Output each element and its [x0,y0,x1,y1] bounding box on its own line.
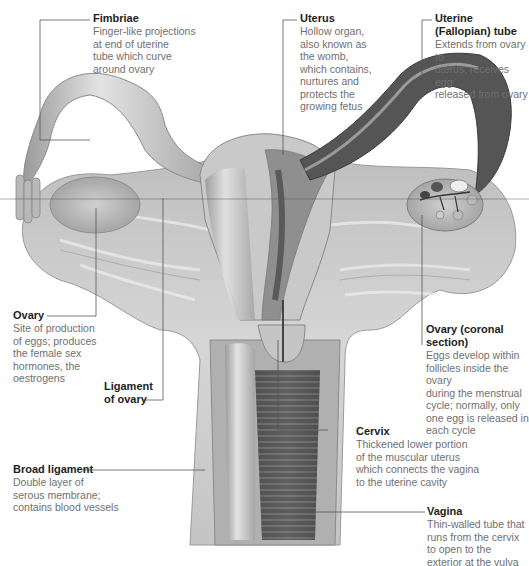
label-vagina-text: Thin-walled tube that runs from the cerv… [427,518,524,566]
label-ovary-text: Site of production of eggs; produces the… [13,322,96,385]
label-fimbriae-text: Finger-like projections at end of uterin… [93,25,196,75]
label-broad-ligament-text: Double layer of serous membrane; contain… [13,476,119,514]
ovary-section-shape [407,179,483,231]
label-uterine-tube: Uterine (Fallopian) tube Extends from ov… [435,12,529,101]
label-uterus-text: Hollow organ, also known as the womb, wh… [300,25,372,113]
label-ovary: Ovary Site of production of eggs; produc… [13,309,96,385]
label-vagina: Vagina Thin-walled tube that runs from t… [427,505,524,566]
label-uterus-title: Uterus [300,12,372,25]
label-uterine-tube-text: Extends from ovary to uterus; receives e… [435,38,529,101]
left-ovary-shape [50,177,140,233]
label-ligament-of-ovary: Ligament of ovary [104,380,153,406]
label-broad-ligament: Broad ligament Double layer of serous me… [13,463,119,514]
label-ligament-of-ovary-title: Ligament of ovary [104,380,153,406]
label-cervix-text: Thickened lower portion of the muscular … [356,438,479,488]
label-broad-ligament-title: Broad ligament [13,463,119,476]
label-ovary-coronal: Ovary (coronal section) Eggs develop wit… [426,323,529,437]
label-cervix: Cervix Thickened lower portion of the mu… [356,425,479,488]
label-uterine-tube-title: Uterine (Fallopian) tube [435,12,529,38]
label-ovary-coronal-title: Ovary (coronal section) [426,323,529,349]
label-fimbriae: Fimbriae Finger-like projections at end … [93,12,196,75]
label-vagina-title: Vagina [427,505,524,518]
label-fimbriae-title: Fimbriae [93,12,196,25]
label-cervix-title: Cervix [356,425,479,438]
label-ovary-coronal-text: Eggs develop within follicles inside the… [426,349,529,437]
label-ovary-title: Ovary [13,309,96,322]
anatomy-diagram: Fimbriae Finger-like projections at end … [0,0,529,566]
label-uterus: Uterus Hollow organ, also known as the w… [300,12,372,113]
